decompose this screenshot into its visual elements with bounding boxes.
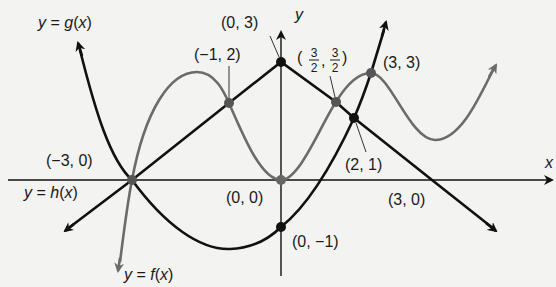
label-point-neg1-2: (−1, 2) — [194, 46, 241, 63]
svg-text:(: ( — [297, 49, 303, 66]
svg-text:3: 3 — [311, 46, 318, 60]
label-f: y = f(x) — [123, 266, 173, 283]
label-point-2-1: (2, 1) — [345, 156, 382, 173]
x-axis-label: x — [544, 154, 554, 171]
svg-text:2: 2 — [311, 61, 318, 75]
label-g: y = g(x) — [37, 14, 92, 31]
point-2-1 — [349, 113, 359, 123]
label-point-0-0: (0, 0) — [226, 189, 263, 206]
label-point-0-3: (0, 3) — [221, 14, 258, 31]
svg-text:): ) — [342, 49, 347, 66]
label-point-neg3-0: (−3, 0) — [46, 152, 93, 169]
svg-text:,: , — [321, 52, 325, 69]
label-point-3-0: (3, 0) — [388, 191, 425, 208]
point-neg1-2 — [224, 98, 234, 108]
point-neg3-0 — [127, 175, 137, 185]
point-0-neg1 — [276, 222, 286, 232]
label-point-0-neg1: (0, −1) — [292, 233, 339, 250]
point-0-0 — [276, 175, 286, 185]
y-axis-label: y — [294, 6, 304, 23]
h-curve — [66, 62, 494, 230]
svg-text:3: 3 — [332, 46, 339, 60]
point-3-3 — [366, 68, 376, 78]
point-0-3 — [276, 57, 286, 67]
label-point-3half-3half: ( 3 2 , 3 2 ) — [297, 46, 347, 75]
svg-text:2: 2 — [332, 61, 339, 75]
label-point-3-3: (3, 3) — [383, 54, 420, 71]
point-3half-3half — [331, 97, 341, 107]
label-h: y = h(x) — [23, 184, 78, 201]
function-graph: y = g(x) y = h(x) y = f(x) x y (−3, 0) (… — [0, 0, 556, 287]
